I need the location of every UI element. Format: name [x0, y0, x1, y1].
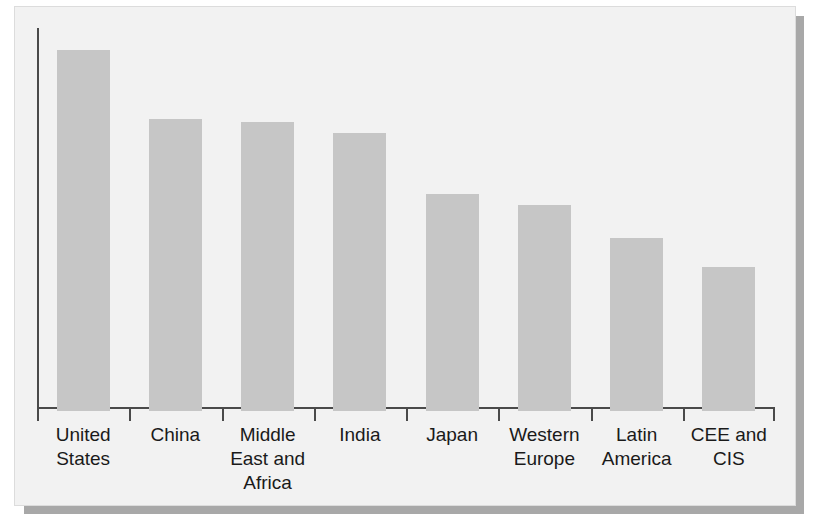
category-label: Latin America: [591, 423, 683, 471]
axis-tick: [129, 407, 131, 421]
chart-panel: United StatesChinaMiddle East and Africa…: [14, 6, 796, 506]
bar: [241, 122, 294, 411]
category-label: CEE and CIS: [683, 423, 775, 471]
bar: [426, 194, 479, 411]
axis-tick: [314, 407, 316, 421]
bar: [702, 267, 755, 411]
axis-tick: [773, 407, 775, 421]
bar: [149, 119, 202, 411]
category-label: India: [314, 423, 406, 447]
axis-tick: [498, 407, 500, 421]
axis-tick: [591, 407, 593, 421]
y-axis-line: [37, 28, 39, 409]
bar: [518, 205, 571, 411]
category-label: Middle East and Africa: [222, 423, 314, 495]
bar: [610, 238, 663, 411]
x-axis-tick-row: [37, 407, 777, 421]
bar: [57, 50, 110, 411]
plot-area: [37, 28, 777, 413]
category-label: Japan: [406, 423, 498, 447]
axis-tick: [37, 407, 39, 421]
x-axis-label-row: United StatesChinaMiddle East and Africa…: [37, 423, 777, 503]
category-label: Western Europe: [498, 423, 590, 471]
bar: [333, 133, 386, 411]
axis-tick: [683, 407, 685, 421]
axis-tick: [406, 407, 408, 421]
axis-tick: [222, 407, 224, 421]
category-label: United States: [37, 423, 129, 471]
figure-frame: United StatesChinaMiddle East and Africa…: [14, 6, 804, 514]
category-label: China: [129, 423, 221, 447]
